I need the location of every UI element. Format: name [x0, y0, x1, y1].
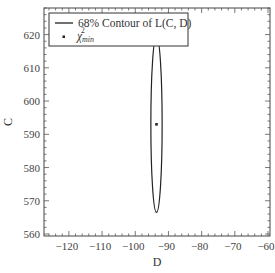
y-tick-label: 590 — [24, 128, 41, 140]
y-tick-label: 560 — [24, 228, 41, 240]
x-tick-label: −100 — [122, 240, 145, 252]
x-tick-label: −80 — [191, 240, 209, 252]
chi2-min-marker — [155, 123, 158, 126]
y-tick-label: 610 — [24, 62, 41, 74]
y-tick-label: 580 — [24, 162, 41, 174]
y-tick-label: 620 — [24, 29, 41, 41]
legend-marker-swatch — [63, 36, 66, 39]
y-tick-label: 600 — [24, 95, 41, 107]
y-tick-label: 570 — [24, 195, 41, 207]
contour-chart: −120−110−100−90−80−70−60 560570580590600… — [0, 0, 275, 273]
x-tick-label: −60 — [257, 240, 275, 252]
legend: 68% Contour of L(C, D) χmin2 — [49, 13, 192, 46]
x-tick-label: −70 — [224, 240, 242, 252]
y-axis-label: C — [1, 118, 15, 126]
x-tick-label: −90 — [158, 240, 176, 252]
legend-item-contour: 68% Contour of L(C, D) — [78, 17, 192, 30]
x-tick-label: −120 — [56, 240, 79, 252]
series-layer — [151, 36, 162, 212]
x-axis-label: D — [153, 255, 162, 269]
x-tick-label: −110 — [89, 240, 112, 252]
